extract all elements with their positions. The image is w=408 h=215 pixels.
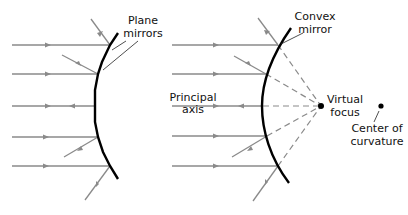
focus-label-line1: Virtual bbox=[322, 93, 368, 106]
mirror-diagram: Plane mirrors Convex mirror Principal ax… bbox=[0, 0, 408, 215]
virtual-focus-label: Virtual focus bbox=[322, 93, 368, 119]
plane-label-line2: mirrors bbox=[118, 27, 168, 40]
center-label-line1: Center of bbox=[346, 122, 408, 135]
axis-label-line2: axis bbox=[166, 103, 220, 116]
convex-mirror-label: Convex mirror bbox=[290, 10, 340, 36]
center-of-curvature-label: Center of curvature bbox=[346, 122, 408, 148]
plane-mirrors-label: Plane mirrors bbox=[118, 14, 168, 40]
principal-axis-label: Principal axis bbox=[166, 91, 220, 116]
focus-label-line2: focus bbox=[322, 106, 368, 119]
left-reflected-arrows bbox=[75, 31, 103, 187]
convex-label-line2: mirror bbox=[290, 23, 340, 36]
right-reflected-arrows bbox=[245, 30, 270, 185]
center-label-line2: curvature bbox=[346, 135, 408, 148]
convex-label-line1: Convex bbox=[290, 10, 340, 23]
plane-label-line1: Plane bbox=[118, 14, 168, 27]
plane-mirrors bbox=[95, 33, 118, 179]
center-of-curvature-point bbox=[378, 103, 383, 108]
center-leader bbox=[374, 111, 379, 122]
left-reflected-rays bbox=[62, 19, 110, 200]
